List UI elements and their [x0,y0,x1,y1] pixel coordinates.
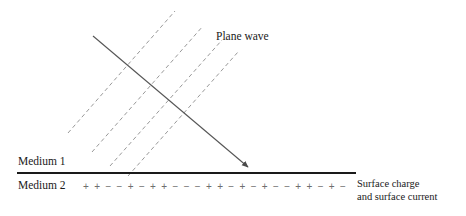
charge-symbol: − [283,181,291,192]
charge-symbol: − [339,181,347,192]
charge-symbol: − [317,181,325,192]
charge-symbol: − [171,181,179,192]
charge-symbol: + [205,181,213,192]
figure-canvas: Plane wave Medium 1 Medium 2 Surface cha… [0,0,466,216]
charge-symbol: + [238,181,246,192]
charge-symbol: + [127,181,135,192]
charge-symbol: + [82,181,90,192]
plane-wave-label: Plane wave [216,29,269,43]
charge-symbol: − [272,181,280,192]
charge-symbol: + [216,181,224,192]
surface-charge-row: ++−−+−++−−−++−+−+−−++−+− [82,179,347,193]
wavefront-line-3 [110,40,222,166]
wavefront-line-1 [68,11,175,133]
charge-symbol: + [294,181,302,192]
charge-symbol: + [160,181,168,192]
charge-symbol: − [116,181,124,192]
charge-symbol: − [138,181,146,192]
surface-label-line-2: and surface current [357,191,437,204]
surface-charge-current-label: Surface charge and surface current [357,178,437,204]
surface-label-line-1: Surface charge [357,178,437,191]
charge-symbol: + [305,181,313,192]
charge-symbol: + [328,181,336,192]
propagation-direction-arrow [93,36,248,167]
wavefront-line-2 [92,26,203,152]
charge-symbol: + [149,181,157,192]
wavefront-line-4 [128,52,238,176]
charge-symbol: + [261,181,269,192]
charge-symbol: − [227,181,235,192]
charge-symbol: − [104,181,112,192]
medium-2-label: Medium 2 [18,178,66,192]
medium-1-label: Medium 1 [18,154,66,168]
charge-symbol: + [93,181,101,192]
charge-symbol: − [183,181,191,192]
charge-symbol: − [194,181,202,192]
charge-symbol: − [250,181,258,192]
